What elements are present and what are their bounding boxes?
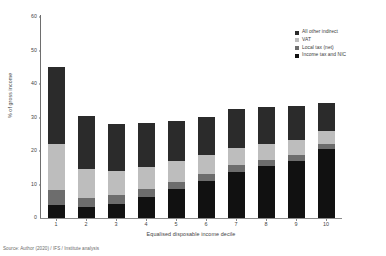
x-tick-mark xyxy=(296,219,297,221)
legend-item[interactable]: VAT xyxy=(295,37,385,45)
x-tick-mark xyxy=(116,219,117,221)
bar-segment xyxy=(258,144,275,160)
bar-segment xyxy=(48,67,65,144)
bar-stack xyxy=(78,116,95,218)
legend-item-label: Income tax and NIC xyxy=(302,53,346,58)
bar-stack xyxy=(138,123,155,218)
bar-stack xyxy=(318,103,335,218)
bar-segment xyxy=(228,148,245,165)
y-tick-mark xyxy=(39,117,41,118)
bar-segment xyxy=(288,106,305,140)
x-tick-mark xyxy=(176,219,177,221)
bar-stack xyxy=(108,124,125,218)
bar-segment xyxy=(108,195,125,203)
x-axis-title: Equalised disposable income decile xyxy=(147,232,236,237)
y-tick-mark xyxy=(39,84,41,85)
bar-segment xyxy=(108,204,125,218)
bar-segment xyxy=(168,121,185,161)
bar-segment xyxy=(258,107,275,144)
source-note: Source: Author (2020) / IFS / Institute … xyxy=(3,247,99,252)
bar-segment xyxy=(288,161,305,218)
bar-segment xyxy=(228,165,245,172)
x-tick-label: 5 xyxy=(175,222,178,227)
y-tick-mark xyxy=(39,50,41,51)
legend-swatch-icon xyxy=(295,54,299,58)
legend-swatch-icon xyxy=(295,31,299,35)
x-tick-label: 4 xyxy=(145,222,148,227)
x-tick-mark xyxy=(236,219,237,221)
bar-segment xyxy=(108,171,125,195)
y-axis-title: % of gross income xyxy=(8,73,13,118)
bar-segment xyxy=(138,197,155,218)
legend-item-label: All other indirect xyxy=(302,30,338,35)
y-tick-mark xyxy=(39,184,41,185)
bar-segment xyxy=(78,116,95,170)
legend-item[interactable]: Local tax (net) xyxy=(295,44,385,52)
x-tick-label: 9 xyxy=(295,222,298,227)
bar-segment xyxy=(168,161,185,181)
bar-stack xyxy=(48,67,65,218)
bar-segment xyxy=(138,167,155,189)
bar-segment xyxy=(168,189,185,218)
y-tick-mark xyxy=(39,151,41,152)
bar-segment xyxy=(318,131,335,144)
legend-item-label: Local tax (net) xyxy=(302,46,334,51)
bar-segment xyxy=(138,123,155,167)
bar-segment xyxy=(48,190,65,205)
x-tick-label: 2 xyxy=(85,222,88,227)
x-tick-mark xyxy=(146,219,147,221)
x-tick-label: 8 xyxy=(265,222,268,227)
chart-figure: % of gross income 0102030405060 12345678… xyxy=(0,0,386,256)
bar-segment xyxy=(288,155,305,161)
legend-swatch-icon xyxy=(295,46,299,50)
bar-segment xyxy=(78,198,95,207)
chart-legend: All other indirectVATLocal tax (net)Inco… xyxy=(295,29,385,59)
bar-segment xyxy=(228,109,245,148)
bar-segment xyxy=(198,181,215,218)
bar-segment xyxy=(318,103,335,131)
x-tick-mark xyxy=(326,219,327,221)
bar-segment xyxy=(78,207,95,218)
bar-segment xyxy=(108,124,125,171)
x-tick-label: 10 xyxy=(323,222,329,227)
bar-segment xyxy=(228,172,245,218)
bar-segment xyxy=(198,117,215,156)
x-tick-label: 7 xyxy=(235,222,238,227)
bar-segment xyxy=(318,144,335,149)
legend-item-label: VAT xyxy=(302,38,311,43)
bar-segment xyxy=(48,144,65,189)
bar-stack xyxy=(198,117,215,218)
bar-segment xyxy=(198,155,215,173)
bar-segment xyxy=(78,169,95,197)
bar-segment xyxy=(168,182,185,189)
y-tick-mark xyxy=(39,17,41,18)
x-tick-label: 6 xyxy=(205,222,208,227)
bar-segment xyxy=(258,166,275,218)
bar-stack xyxy=(258,107,275,218)
x-tick-mark xyxy=(56,219,57,221)
x-tick-mark xyxy=(86,219,87,221)
bar-segment xyxy=(48,205,65,218)
bar-stack xyxy=(288,106,305,218)
x-tick-mark xyxy=(266,219,267,221)
x-tick-label: 1 xyxy=(55,222,58,227)
bar-segment xyxy=(318,149,335,218)
legend-item[interactable]: Income tax and NIC xyxy=(295,52,385,60)
bar-segment xyxy=(198,174,215,181)
x-tick-mark xyxy=(206,219,207,221)
bar-stack xyxy=(228,109,245,218)
bar-segment xyxy=(258,160,275,166)
bar-segment xyxy=(288,140,305,155)
y-tick-label: 0 xyxy=(34,215,41,220)
x-tick-label: 3 xyxy=(115,222,118,227)
bar-segment xyxy=(138,189,155,197)
legend-swatch-icon xyxy=(295,38,299,42)
legend-item[interactable]: All other indirect xyxy=(295,29,385,37)
bar-stack xyxy=(168,121,185,218)
